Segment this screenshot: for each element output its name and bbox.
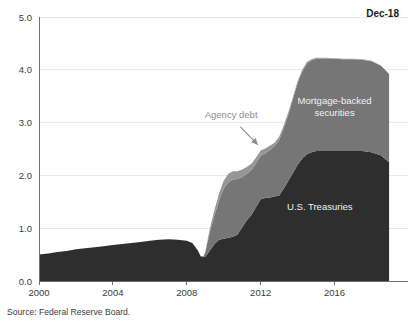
x-tick-label-2012: 2012 [250, 287, 271, 298]
series-label-u-s-treasuries: U.S. Treasuries [287, 201, 353, 212]
y-tick-label-0.0: 0.0 [19, 276, 32, 287]
latest-date-note: Dec-18 [366, 8, 399, 19]
x-tick-label-2004: 2004 [102, 287, 123, 298]
y-tick-label-3.0: 3.0 [19, 117, 32, 128]
y-tick-label-5.0: 5.0 [19, 12, 32, 23]
x-tick-label-2016: 2016 [324, 287, 345, 298]
y-tick-label-2.0: 2.0 [19, 170, 32, 181]
x-tick-label-2008: 2008 [176, 287, 197, 298]
y-tick-label-4.0: 4.0 [19, 64, 32, 75]
series-label-mortgage-backed-securities-line2: securities [315, 107, 355, 118]
source-note: Source: Federal Reserve Board. [7, 307, 130, 317]
annotation-label-agency-debt: Agency debt [205, 109, 258, 120]
stacked-area-chart-svg: 0.01.02.03.04.05.0 20002004200820122016 … [0, 0, 408, 329]
y-tick-label-1.0: 1.0 [19, 223, 32, 234]
x-tick-label-2000: 2000 [28, 287, 49, 298]
series-label-mortgage-backed-securities-line1: Mortgage-backed [298, 95, 372, 106]
federal-reserve-balance-sheet-chart: 0.01.02.03.04.05.0 20002004200820122016 … [0, 0, 408, 329]
